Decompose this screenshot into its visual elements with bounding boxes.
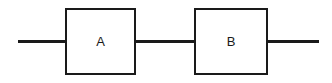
block-a: A (65, 8, 136, 75)
block-b: B (194, 8, 268, 75)
connector-a-b (135, 40, 195, 43)
block-a-label: A (96, 34, 105, 49)
input-line (18, 40, 66, 43)
block-b-label: B (227, 34, 236, 49)
output-line (267, 40, 319, 43)
